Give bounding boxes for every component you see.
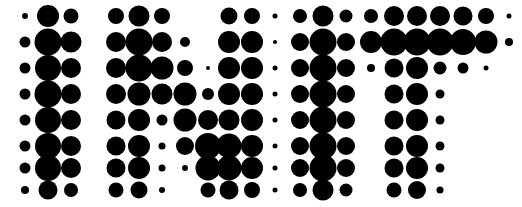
halftone-dot: [241, 83, 263, 105]
halftone-dot: [244, 182, 260, 198]
halftone-dot: [337, 85, 355, 103]
halftone-dot: [159, 187, 165, 193]
halftone-dot: [106, 32, 126, 52]
halftone-dot: [39, 181, 58, 200]
halftone-dot: [217, 156, 242, 181]
halftone-dot: [310, 81, 337, 108]
halftone-dot-layer: [0, 0, 522, 207]
halftone-dot: [291, 33, 309, 51]
halftone-dot: [407, 6, 427, 26]
halftone-dot: [154, 8, 170, 24]
halftone-dot: [387, 183, 402, 198]
halftone-dot: [273, 40, 277, 44]
halftone-dot: [22, 13, 28, 19]
halftone-dot: [107, 111, 126, 130]
halftone-dot: [20, 37, 31, 48]
halftone-dot: [180, 37, 190, 47]
halftone-dot: [35, 107, 61, 133]
halftone-dot: [434, 62, 447, 75]
halftone-dot: [202, 88, 214, 100]
halftone-dot: [427, 29, 454, 56]
halftone-dot: [450, 29, 476, 55]
halftone-dot: [106, 84, 126, 104]
halftone-dot: [507, 14, 512, 19]
halftone-dot: [128, 135, 150, 157]
halftone-dot: [159, 143, 166, 150]
halftone-dot: [406, 157, 428, 179]
halftone-dot: [505, 38, 513, 46]
halftone-dot: [291, 137, 309, 155]
halftone-dot: [37, 5, 59, 27]
halftone-dot: [61, 110, 81, 130]
halftone-dot: [340, 184, 353, 197]
halftone-dot: [106, 58, 126, 78]
halftone-dot: [273, 118, 278, 123]
halftone-dot: [310, 155, 337, 182]
halftone-dot: [108, 8, 124, 24]
halftone-dot: [20, 63, 31, 74]
halftone-dot: [21, 186, 29, 194]
halftone-dot: [64, 183, 78, 197]
halftone-dot: [241, 57, 263, 79]
halftone-dot: [385, 59, 404, 78]
halftone-dot: [152, 32, 172, 52]
halftone-dot: [20, 89, 31, 100]
halftone-dot: [291, 85, 309, 103]
halftone-dot: [291, 59, 309, 77]
halftone-dot: [436, 116, 445, 125]
halftone-dot: [220, 181, 239, 200]
halftone-dot: [61, 136, 81, 156]
halftone-dot: [385, 111, 404, 130]
halftone-dot: [241, 109, 263, 131]
halftone-artwork: [0, 0, 522, 207]
halftone-dot: [35, 55, 61, 81]
halftone-dot: [128, 109, 150, 131]
halftone-dot: [201, 183, 216, 198]
halftone-dot: [293, 9, 307, 23]
halftone-dot: [364, 9, 378, 23]
halftone-dot: [107, 137, 126, 156]
halftone-dot: [273, 166, 278, 171]
halftone-dot: [61, 58, 81, 78]
halftone-dot: [436, 142, 445, 151]
halftone-dot: [381, 29, 408, 56]
halftone-dot: [367, 64, 375, 72]
halftone-dot: [241, 31, 263, 53]
halftone-dot: [35, 81, 62, 108]
halftone-dot: [310, 107, 337, 134]
halftone-dot: [310, 29, 337, 56]
halftone-dot: [385, 137, 404, 156]
halftone-dot: [221, 8, 238, 25]
halftone-dot: [219, 110, 240, 131]
halftone-dot: [241, 135, 263, 157]
halftone-dot: [408, 181, 426, 199]
halftone-dot: [61, 158, 81, 178]
halftone-dot: [337, 159, 355, 177]
halftone-dot: [218, 83, 240, 105]
halftone-dot: [20, 115, 31, 126]
halftone-dot: [128, 157, 150, 179]
halftone-dot: [291, 111, 309, 129]
halftone-dot: [458, 63, 469, 74]
halftone-dot: [406, 135, 428, 157]
halftone-dot: [35, 29, 62, 56]
halftone-dot: [384, 6, 404, 26]
halftone-dot: [64, 9, 79, 24]
halftone-dot: [159, 165, 166, 172]
halftone-dot: [273, 92, 278, 97]
halftone-dot: [61, 84, 81, 104]
halftone-dot: [406, 83, 428, 105]
halftone-dot: [313, 180, 334, 201]
halftone-dot: [35, 155, 61, 181]
halftone-dot: [484, 66, 489, 71]
halftone-dot: [337, 33, 355, 51]
halftone-dot: [241, 157, 263, 179]
halftone-dot: [218, 31, 240, 53]
halftone-dot: [406, 57, 428, 79]
halftone-dot: [20, 163, 31, 174]
halftone-dot: [406, 109, 428, 131]
halftone-dot: [20, 141, 31, 152]
halftone-dot: [131, 182, 148, 199]
halftone-dot: [174, 83, 197, 106]
halftone-dot: [340, 10, 353, 23]
